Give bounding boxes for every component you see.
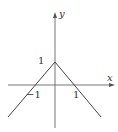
function-curve bbox=[8, 62, 101, 117]
tick-label-x-1: 1 bbox=[73, 89, 79, 100]
x-axis-arrow-icon bbox=[109, 83, 115, 87]
tick-label-y-1: 1 bbox=[38, 55, 44, 66]
y-axis-arrow-icon bbox=[53, 12, 57, 18]
x-axis-label: x bbox=[107, 72, 113, 83]
tick-label-x-neg-1: −1 bbox=[26, 89, 41, 100]
y-axis-label: y bbox=[58, 8, 65, 19]
graph: y x 1 −1 1 bbox=[0, 0, 118, 132]
